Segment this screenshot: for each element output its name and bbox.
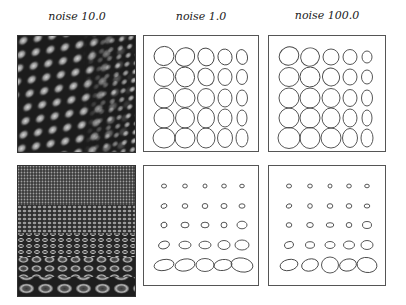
ellipse-plot-bottom-noise-100 bbox=[268, 165, 386, 286]
column-label-noise-10: noise 10.0 bbox=[17, 10, 137, 23]
ellipse-plot-bottom-noise-1 bbox=[143, 165, 259, 286]
column-label-noise-1: noise 1.0 bbox=[141, 10, 261, 23]
texture-image-top bbox=[17, 35, 136, 153]
column-label-noise-100: noise 100.0 bbox=[267, 9, 387, 22]
ellipse-plot-top-noise-100 bbox=[268, 35, 386, 152]
texture-image-bottom bbox=[17, 165, 136, 297]
ellipse-plot-top-noise-1 bbox=[143, 35, 259, 152]
